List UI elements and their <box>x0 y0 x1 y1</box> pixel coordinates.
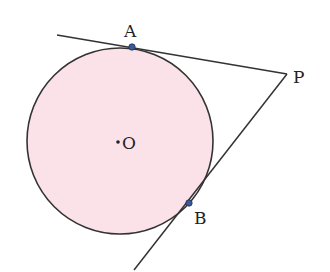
label-B: B <box>194 208 207 228</box>
label-P: P <box>293 67 304 87</box>
center-O-dot <box>116 140 120 144</box>
geometry-diagram: A P B O <box>0 0 330 272</box>
label-O: O <box>122 133 136 153</box>
point-A-marker <box>129 44 135 50</box>
point-B-marker <box>186 200 192 206</box>
label-A: A <box>123 21 137 41</box>
circle-O <box>27 48 213 234</box>
